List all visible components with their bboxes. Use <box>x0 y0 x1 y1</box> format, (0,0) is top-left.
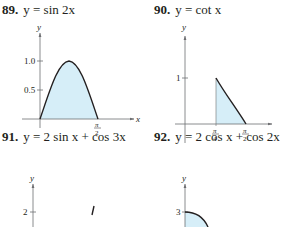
x-axis-label: x <box>135 114 140 124</box>
y-axis-label: y <box>36 22 41 32</box>
tick-label-2: 2 <box>243 135 247 143</box>
graph-90: y 1 π 4 π 2 <box>175 22 272 143</box>
tick-label-2: 2 <box>95 129 99 137</box>
y-axis-label: y <box>181 22 186 32</box>
tick-label-1: 1.0 <box>24 56 36 66</box>
tick-label-05: 0.5 <box>24 85 36 95</box>
tick-label-2: 2 <box>23 207 28 217</box>
tick-label-3: 3 <box>176 207 181 217</box>
graph-89: y x 1.0 0.5 π 2 <box>22 22 140 137</box>
curve <box>92 206 94 215</box>
tick-label-1: 1 <box>176 73 181 83</box>
shaded-region <box>40 61 98 119</box>
y-axis-label: y <box>29 173 34 183</box>
graph-91: y 2 <box>23 173 94 227</box>
y-axis-label: y <box>181 173 186 183</box>
tick-label-4: 4 <box>213 135 217 143</box>
graphs-canvas: y x 1.0 0.5 π 2 y 1 π 4 π 2 y 2 y <box>0 0 281 227</box>
graph-92: y 3 <box>176 173 208 227</box>
